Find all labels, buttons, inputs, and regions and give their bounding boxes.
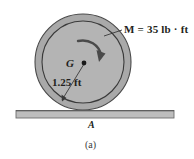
center-label: G [66, 58, 74, 69]
contact-point-label: A [88, 120, 95, 130]
figure-caption: (a) [85, 140, 96, 150]
moment-units: lb · ft [161, 23, 188, 35]
mechanics-figure: M = 35 lb · ft G 1.25 ft A (a) [0, 0, 194, 159]
center-point-marker [82, 61, 87, 66]
moment-symbol: M [124, 23, 135, 35]
ground-surface [16, 111, 174, 119]
moment-label: M = 35 lb · ft [124, 24, 188, 35]
moment-magnitude: 35 [147, 23, 158, 35]
radius-label: 1.25 ft [52, 77, 81, 88]
